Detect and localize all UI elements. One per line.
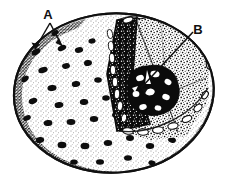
surface-pore <box>124 155 132 161</box>
organism-cutaway-illustration: A B <box>0 0 225 182</box>
figure-container: A B <box>0 0 225 182</box>
surface-pore <box>96 159 104 165</box>
label-b: B <box>193 22 202 37</box>
surface-pore <box>104 140 112 146</box>
surface-pore <box>90 116 98 122</box>
label-a: A <box>43 7 53 22</box>
surface-pore <box>70 159 78 164</box>
surface-pore <box>94 77 102 83</box>
internal-cluster <box>128 65 179 115</box>
surface-pore <box>102 95 110 101</box>
surface-pore <box>146 143 154 149</box>
surface-pore <box>126 135 134 141</box>
surface-pore <box>58 142 67 148</box>
surface-pore <box>81 143 90 149</box>
surface-pore <box>67 119 76 125</box>
